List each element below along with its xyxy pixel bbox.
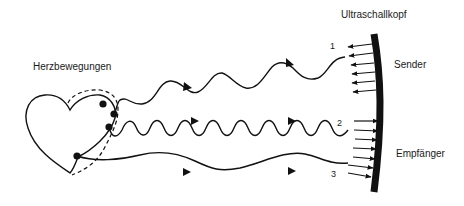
sender-arrows	[348, 44, 376, 92]
transducer-icon	[374, 34, 380, 192]
wave-path-1	[114, 57, 345, 114]
doppler-diagram: Herzbewegungen Ultraschallkopf Sender Em…	[0, 0, 464, 206]
transducer-label: Ultraschallkopf	[341, 10, 407, 20]
wave-path-2	[109, 117, 348, 136]
receiver-label: Empfänger	[396, 149, 445, 159]
reflection-points	[73, 100, 117, 159]
sender-label: Sender	[394, 60, 426, 70]
path-1-label: 1	[330, 42, 335, 51]
path-3-label: 3	[331, 170, 336, 179]
heart-motion-label: Herzbewegungen	[33, 62, 111, 72]
path-2-label: 2	[337, 119, 342, 128]
wave-path-3	[77, 153, 348, 176]
diagram-graphics	[0, 0, 464, 206]
